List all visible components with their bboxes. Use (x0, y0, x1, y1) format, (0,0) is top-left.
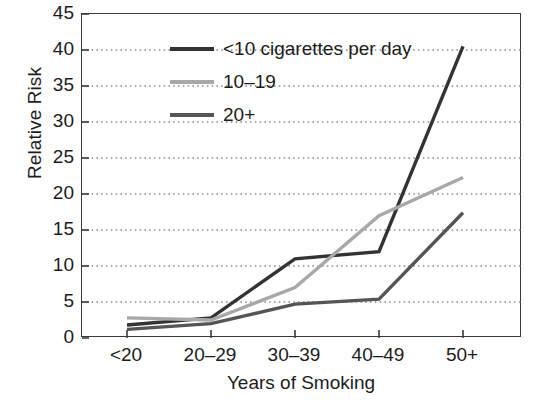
series-line (127, 177, 463, 320)
legend-item: 10–19 (170, 65, 470, 98)
y-tick-label: 25 (53, 146, 74, 168)
y-tick-label: 30 (53, 110, 74, 132)
legend-label: <10 cigarettes per day (223, 38, 412, 60)
y-tick-label: 45 (53, 2, 74, 24)
x-axis-title: Years of Smoking (81, 372, 521, 394)
chart-legend: <10 cigarettes per day10–1920+ (170, 32, 470, 131)
legend-item: <10 cigarettes per day (170, 32, 470, 65)
x-tick-label: 20–29 (184, 344, 237, 366)
legend-line-swatch (170, 47, 214, 51)
legend-item: 20+ (170, 98, 470, 131)
legend-label: 10–19 (223, 71, 276, 93)
x-tick-label: 50+ (446, 344, 478, 366)
legend-line-swatch (170, 80, 214, 84)
y-tick-label: 20 (53, 182, 74, 204)
y-tick-label: 10 (53, 254, 74, 276)
y-tick-label: 35 (53, 74, 74, 96)
x-tick-label: <20 (110, 344, 142, 366)
x-axis-tick-labels: <2020–2930–3940–4950+ (81, 344, 521, 370)
legend-line-swatch (170, 113, 214, 117)
series-line (127, 213, 463, 330)
legend-label: 20+ (223, 104, 255, 126)
x-tick-label: 30–39 (268, 344, 321, 366)
y-tick-label: 0 (63, 326, 74, 348)
y-tick-label: 15 (53, 218, 74, 240)
plot-area: <10 cigarettes per day10–1920+ (81, 13, 521, 337)
y-tick-label: 40 (53, 38, 74, 60)
y-tick-label: 5 (63, 290, 74, 312)
y-axis-tick-labels: 051015202530354045 (28, 13, 74, 337)
x-tick-label: 40–49 (352, 344, 405, 366)
chart-figure: Relative Risk 051015202530354045 <10 cig… (0, 0, 536, 406)
